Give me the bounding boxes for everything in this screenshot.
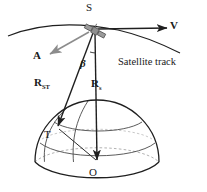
globe-meridian-lines [44, 101, 88, 180]
globe-meridian-left [44, 105, 70, 176]
satellite-solar-panel-right [97, 31, 105, 38]
label-RST-base: R [34, 76, 42, 88]
label-attitude-vector: A [33, 50, 41, 61]
label-beta-angle: β [80, 58, 86, 69]
velocity-vector-V [98, 28, 167, 29]
globe-equator-front-arc [35, 162, 159, 178]
label-Rs-subscript: s [99, 84, 102, 91]
attitude-vector-A [50, 32, 89, 54]
label-velocity-vector: V [170, 20, 178, 31]
globe-latitude-upper-arc [54, 122, 142, 131]
label-target-point: T [44, 129, 51, 140]
globe-base-outline [35, 162, 159, 178]
satellite-geometry-figure: S V A β RST Rs T O Satellite track [0, 0, 207, 192]
label-earth-center-point: O [89, 167, 97, 178]
label-Rs-base: R [91, 77, 99, 89]
label-satellite-point: S [86, 2, 92, 13]
label-RST-subscript: ST [42, 83, 50, 90]
label-satellite-track-caption: Satellite track [118, 57, 176, 68]
satellite-solar-panel-left [84, 24, 92, 31]
radius-vector-Rs [95, 33, 97, 160]
label-range-vector-RST: RST [34, 77, 50, 91]
globe-meridian-center-left [73, 101, 88, 180]
target-to-center-line [59, 129, 96, 160]
label-radius-vector-Rs: Rs [91, 78, 101, 92]
